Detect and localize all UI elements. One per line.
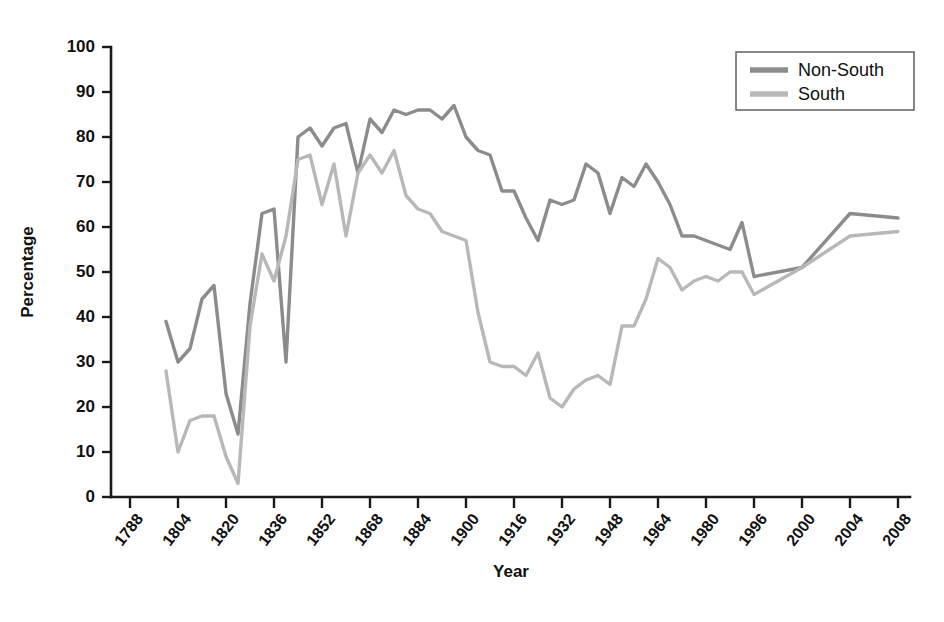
legend-label-non-south: Non-South [798, 60, 884, 80]
x-tick-label: 1852 [303, 510, 338, 549]
x-tick-label: 1948 [591, 510, 626, 549]
x-tick-label: 2008 [879, 510, 914, 549]
series-line-south [166, 151, 898, 484]
y-tick-label: 40 [76, 307, 95, 326]
y-tick-label: 70 [76, 172, 95, 191]
x-tick-label: 1836 [255, 510, 290, 549]
y-tick-label: 10 [76, 442, 95, 461]
legend-label-south: South [798, 84, 845, 104]
y-tick-label: 60 [76, 217, 95, 236]
y-tick-label: 0 [86, 487, 95, 506]
x-tick-label: 1916 [495, 510, 530, 549]
chart-container: 0102030405060708090100 Percentage 178818… [0, 0, 944, 622]
x-tick-label: 1804 [159, 510, 194, 549]
y-tick-label: 30 [76, 352, 95, 371]
x-tick-label: 2000 [783, 510, 818, 549]
x-tick-label: 1820 [207, 510, 242, 549]
y-axis: 0102030405060708090100 Percentage [18, 37, 111, 506]
x-tick-label: 2004 [831, 510, 866, 549]
chart-legend: Non-South South [736, 52, 914, 110]
x-tick-label: 1996 [735, 510, 770, 549]
x-tick-label: 1980 [687, 510, 722, 549]
x-tick-label: 1868 [351, 510, 386, 549]
x-tick-label: 1884 [399, 510, 434, 549]
line-chart: 0102030405060708090100 Percentage 178818… [0, 0, 944, 622]
series-layer [166, 106, 898, 484]
y-tick-label: 100 [67, 37, 95, 56]
x-axis-title: Year [493, 562, 529, 581]
y-tick-group: 0102030405060708090100 [67, 37, 111, 506]
x-tick-label: 1788 [111, 510, 146, 549]
y-tick-label: 90 [76, 82, 95, 101]
x-tick-label: 1964 [639, 510, 674, 549]
x-axis: 1788180418201836185218681884190019161932… [111, 497, 914, 581]
x-tick-label: 1900 [447, 510, 482, 549]
x-tick-group: 1788180418201836185218681884190019161932… [111, 497, 914, 549]
y-tick-label: 80 [76, 127, 95, 146]
y-axis-title: Percentage [18, 226, 37, 318]
y-tick-label: 20 [76, 397, 95, 416]
x-tick-label: 1932 [543, 510, 578, 549]
y-tick-label: 50 [76, 262, 95, 281]
